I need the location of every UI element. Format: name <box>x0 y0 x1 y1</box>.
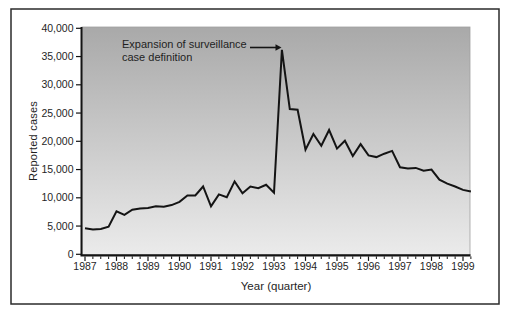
x-tick-label: 1994 <box>294 260 318 272</box>
annotation-text-line2: case definition <box>122 51 247 64</box>
y-tick-label: 0 <box>68 248 74 260</box>
x-tick-label: 1988 <box>105 260 129 272</box>
annotation-text-line1: Expansion of surveillance <box>122 38 247 51</box>
y-tick-label: 25,000 <box>41 107 73 119</box>
x-tick-label: 1992 <box>231 260 255 272</box>
y-tick-label: 40,000 <box>41 22 73 34</box>
x-tick-label: 1999 <box>451 260 475 272</box>
annotation-text: Expansion of surveillance case definitio… <box>122 38 247 64</box>
y-tick-label: 5,000 <box>47 220 73 232</box>
x-tick-label: 1987 <box>73 260 97 272</box>
y-axis-title: Reported cases <box>27 101 39 181</box>
y-tick-label: 35,000 <box>41 50 73 62</box>
x-tick-label: 1995 <box>325 260 349 272</box>
y-tick-label: 15,000 <box>41 163 73 175</box>
y-tick-label: 10,000 <box>41 191 73 203</box>
x-tick-label: 1997 <box>388 260 412 272</box>
y-tick-label: 30,000 <box>41 78 73 90</box>
x-tick-label: 1989 <box>136 260 160 272</box>
y-tick-label: 20,000 <box>41 135 73 147</box>
figure: 05,00010,00015,00020,00025,00030,00035,0… <box>0 0 506 314</box>
x-tick-label: 1998 <box>420 260 444 272</box>
x-tick-label: 1991 <box>199 260 223 272</box>
x-tick-label: 1996 <box>357 260 381 272</box>
x-axis-title: Year (quarter) <box>241 280 312 292</box>
x-tick-label: 1993 <box>262 260 286 272</box>
x-tick-label: 1990 <box>168 260 192 272</box>
chart-canvas: 05,00010,00015,00020,00025,00030,00035,0… <box>0 0 506 314</box>
